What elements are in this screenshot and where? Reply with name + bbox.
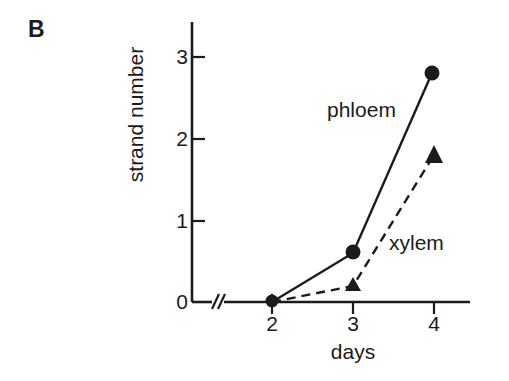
data-point-phloem-day4	[425, 66, 440, 81]
x-tick-label-4: 4	[419, 313, 449, 334]
y-tick-label-2: 2	[160, 128, 188, 149]
y-axis-title: strand number	[125, 30, 146, 200]
figure-panel-b: B 3 2 1 0 2 3 4 strand numbe	[0, 0, 509, 381]
data-point-phloem-day2	[266, 295, 279, 308]
x-axis-title: days	[303, 341, 403, 362]
y-tick-label-3: 3	[160, 46, 188, 67]
x-tick-label-3: 3	[338, 313, 368, 334]
series-label-phloem: phloem	[327, 99, 396, 120]
y-tick-label-1: 1	[160, 210, 188, 231]
series-label-xylem: xylem	[389, 232, 444, 253]
data-point-xylem-day4	[425, 145, 443, 163]
y-tick-label-0: 0	[160, 291, 188, 312]
x-tick-label-2: 2	[257, 313, 287, 334]
data-point-phloem-day3	[346, 245, 361, 260]
